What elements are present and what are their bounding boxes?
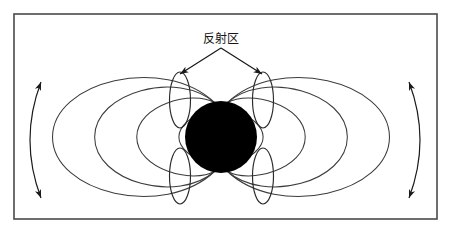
reflection-zone-label: 反射区	[203, 31, 239, 46]
diagram-root: 反射区	[0, 0, 450, 235]
central-body-circle	[185, 101, 257, 173]
dipole-field-diagram: 反射区	[0, 0, 450, 235]
